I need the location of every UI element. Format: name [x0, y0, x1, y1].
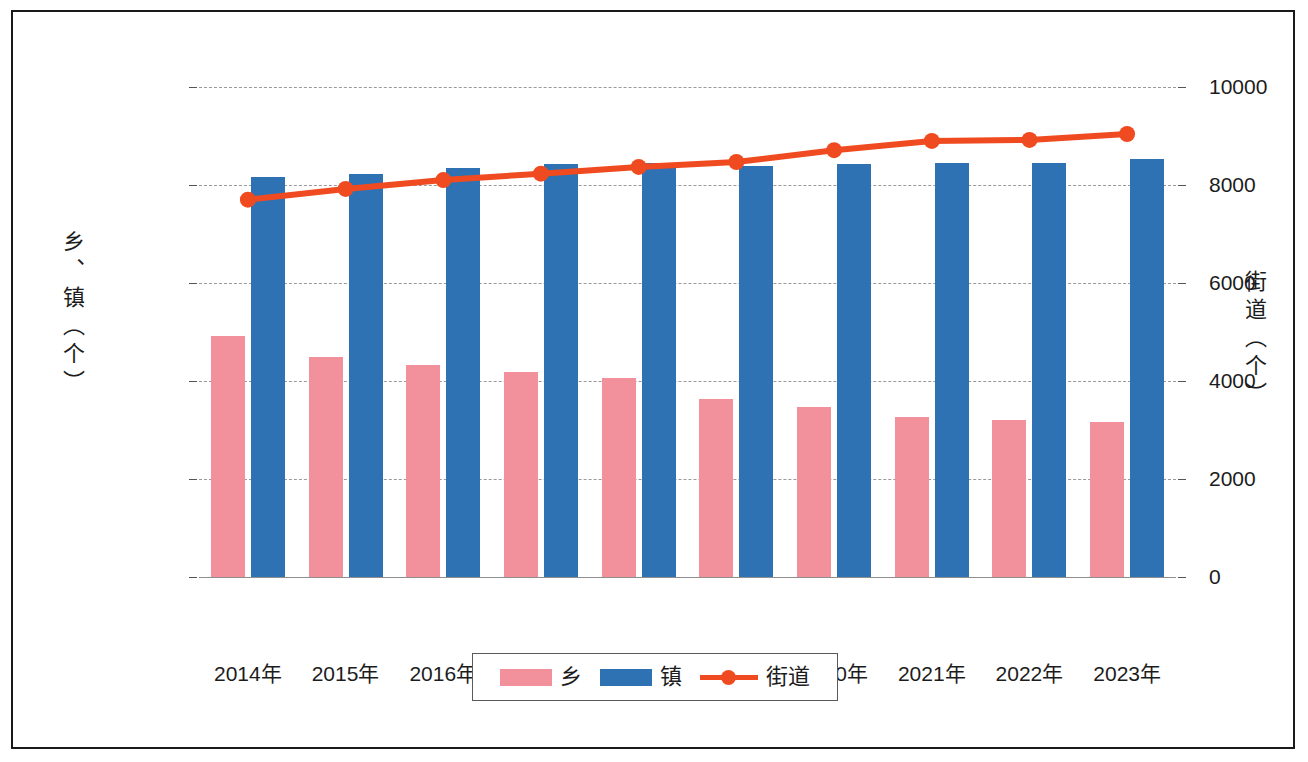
- legend-item: 镇: [600, 666, 682, 688]
- bar-xiang: [992, 420, 1026, 577]
- line-marker-point: [826, 142, 842, 158]
- bar-zhen: [544, 164, 578, 577]
- bar-xiang: [504, 372, 538, 577]
- gridline: [199, 87, 1176, 88]
- legend-label: 街道: [766, 666, 810, 688]
- bar-xiang: [602, 378, 636, 577]
- left-axis-title: 乡、镇（个）: [59, 230, 84, 398]
- bar-xiang: [699, 399, 733, 577]
- left-tick-mark: [189, 577, 197, 578]
- bar-xiang: [406, 365, 440, 577]
- line-marker-point: [924, 133, 940, 149]
- bar-xiang: [309, 357, 343, 578]
- line-marker-point: [1119, 126, 1135, 142]
- legend-item: 乡: [500, 666, 582, 688]
- left-tick-mark: [189, 185, 197, 186]
- right-tick-mark: [1178, 381, 1186, 382]
- x-axis-tick-label: 2023年: [1078, 663, 1176, 684]
- right-axis-tick-label: 0: [1209, 566, 1221, 587]
- x-axis-baseline: [199, 577, 1176, 578]
- bar-zhen: [837, 164, 871, 577]
- bar-zhen: [251, 177, 285, 577]
- bar-zhen: [1032, 163, 1066, 577]
- right-tick-mark: [1178, 185, 1186, 186]
- legend-swatch-icon: [500, 669, 552, 686]
- chart-figure: 乡、镇（个） 街道（个） 0500010000150002000025000 0…: [0, 0, 1308, 762]
- bar-xiang: [211, 336, 245, 577]
- bar-zhen: [1130, 159, 1164, 577]
- line-marker-point: [1022, 132, 1038, 148]
- left-tick-mark: [189, 87, 197, 88]
- gridline: [199, 283, 1176, 284]
- bar-zhen: [446, 168, 480, 577]
- right-axis-tick-label: 10000: [1209, 76, 1267, 97]
- right-axis-tick-label: 8000: [1209, 174, 1256, 195]
- bar-zhen: [739, 166, 773, 577]
- gridline: [199, 185, 1176, 186]
- left-tick-mark: [189, 479, 197, 480]
- right-tick-mark: [1178, 283, 1186, 284]
- x-axis-tick-label: 2014年: [199, 663, 297, 684]
- bar-xiang: [1090, 422, 1124, 577]
- plot-area: 0500010000150002000025000 02000400060008…: [199, 87, 1176, 577]
- bar-xiang: [797, 407, 831, 577]
- x-axis-tick-label: 2022年: [981, 663, 1079, 684]
- legend-label: 镇: [660, 666, 682, 688]
- x-axis-tick-label: 2021年: [883, 663, 981, 684]
- bar-zhen: [349, 174, 383, 577]
- bar-xiang: [895, 417, 929, 577]
- x-axis-tick-label: 2015年: [297, 663, 395, 684]
- left-tick-mark: [189, 381, 197, 382]
- right-axis-tick-label: 4000: [1209, 370, 1256, 391]
- chart-legend: 乡镇街道: [472, 653, 838, 701]
- left-tick-mark: [189, 283, 197, 284]
- legend-swatch-icon: [600, 669, 652, 686]
- figure-frame: 乡、镇（个） 街道（个） 0500010000150002000025000 0…: [11, 10, 1295, 749]
- jiedao-line-series: [199, 87, 1176, 577]
- gridline: [199, 479, 1176, 480]
- legend-item: 街道: [700, 666, 810, 688]
- bar-zhen: [935, 163, 969, 577]
- gridline: [199, 381, 1176, 382]
- right-tick-mark: [1178, 87, 1186, 88]
- right-axis-tick-label: 2000: [1209, 468, 1256, 489]
- legend-line-marker-icon: [700, 668, 758, 686]
- right-tick-mark: [1178, 577, 1186, 578]
- legend-label: 乡: [560, 666, 582, 688]
- bar-zhen: [642, 163, 676, 577]
- right-tick-mark: [1178, 479, 1186, 480]
- right-axis-tick-label: 6000: [1209, 272, 1256, 293]
